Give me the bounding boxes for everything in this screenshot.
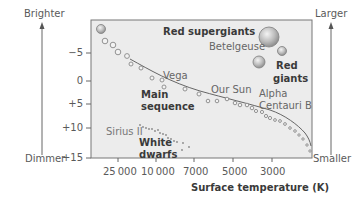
y-tick-plus10: +10 — [62, 123, 83, 133]
red-giant-medium — [253, 56, 265, 68]
larger-label: Larger — [315, 9, 347, 19]
main-sequence-label-1: Main — [141, 89, 168, 100]
brightness-arrow-head — [40, 22, 45, 29]
size-arrow-head — [329, 22, 334, 29]
y-axis-ticks — [86, 53, 91, 158]
smaller-label: Smaller — [313, 154, 351, 164]
white-dwarfs-label-2: dwarfs — [139, 149, 177, 160]
our-sun-label: Our Sun — [211, 84, 252, 95]
red-giants-label-1: Red — [276, 60, 298, 71]
x-tick-7000: 7000 — [183, 167, 208, 177]
y-tick-plus5: +5 — [68, 99, 83, 109]
x-axis-title: Surface temperature (K) — [191, 183, 329, 193]
red-supergiants-label: Red supergiants — [163, 26, 255, 37]
x-tick-10000: 10 000 — [141, 167, 175, 177]
betelgeuse-label: Betelgeuse — [209, 41, 265, 52]
dimmer-label: Dimmer — [25, 154, 65, 164]
alpha-centauri-label-1: Alpha — [259, 88, 287, 99]
white-dwarfs-label-1: White — [139, 137, 172, 148]
red-giants-label-2: giants — [273, 73, 308, 84]
sirius-label: Sirius II — [106, 126, 143, 137]
alpha-centauri-label-2: Centauri B — [259, 100, 312, 111]
main-sequence-label-2: sequence — [141, 101, 195, 112]
vega-label: Vega — [163, 70, 188, 81]
y-tick-plus15: +15 — [62, 153, 83, 163]
x-tick-5000: 5000 — [222, 167, 247, 177]
brighter-label: Brighter — [24, 9, 65, 19]
x-tick-3000: 3000 — [260, 167, 285, 177]
x-tick-25000: 25 000 — [103, 167, 137, 177]
red-giant-small — [278, 47, 287, 56]
y-tick-minus5: −5 — [68, 48, 83, 58]
y-tick-0: 0 — [77, 76, 83, 86]
